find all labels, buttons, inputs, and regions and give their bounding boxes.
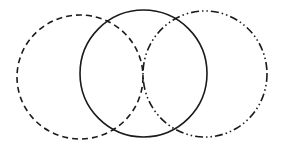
venn-diagram xyxy=(0,0,283,147)
right-dash-dot-circle xyxy=(143,11,267,137)
